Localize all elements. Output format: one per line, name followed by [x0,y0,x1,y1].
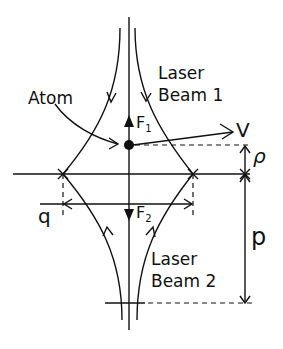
atom-label: Atom [28,88,73,108]
beam2-left-profile [63,174,122,320]
q-label: q [38,204,51,228]
atom-pointer-arrowhead-icon [109,138,118,149]
beam2-label-line1: Laser [151,249,197,269]
velocity-label: V [236,118,250,142]
rho-label: ρ [253,144,266,168]
force1-label: F1 [136,113,152,134]
velocity-arrowhead-icon [220,124,233,139]
p-label: p [251,223,266,251]
force2-label: F2 [136,203,152,224]
atom-pointer-arrow [55,104,118,144]
force2-letter: F [136,203,145,222]
beam2-label-line2: Beam 2 [151,271,216,291]
force2-arrowhead-icon [124,209,134,221]
force1-arrowhead-icon [124,115,134,127]
force1-subscript: 1 [145,123,151,134]
force2-subscript: 2 [145,213,151,224]
atom-dot [124,140,134,150]
laser-atom-diagram: q Atom F1 F2 V ρ p Laser Beam 1 Laser Be… [0,0,283,349]
beam1-label-line2: Beam 1 [158,85,223,105]
beam1-label-line1: Laser [158,63,204,83]
force1-letter: F [136,113,145,132]
beam2-right-profile [137,174,193,320]
